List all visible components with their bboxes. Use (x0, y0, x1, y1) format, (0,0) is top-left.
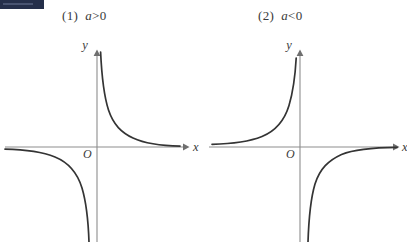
y-axis-label-1: y (80, 38, 88, 52)
panel-1-caption-index: (1) (62, 8, 78, 23)
panel-2-caption-variable: a (281, 8, 288, 23)
y-axis-arrowhead-2 (297, 50, 304, 57)
curve-branch-q2-2 (212, 58, 296, 144)
hyperbola-plot-negative-a: y x O (204, 30, 407, 242)
panel-1-caption-relation: > (92, 8, 100, 23)
hyperbola-plot-positive-a: y x O (0, 30, 203, 242)
x-axis-arrowhead-1 (183, 144, 190, 151)
y-axis-arrowhead-1 (94, 50, 101, 57)
panel-2-caption: (2) a<0 (258, 8, 302, 24)
panel-2-caption-index: (2) (258, 8, 274, 23)
origin-label-1: O (83, 147, 92, 161)
curve-branch-q3-1 (5, 149, 89, 242)
cropped-toolbar-strip (0, 0, 44, 9)
curve-branch-q4-2 (308, 147, 397, 242)
x-axis-label-1: x (192, 140, 199, 154)
panel-2-caption-relation: < (288, 8, 296, 23)
panel-1-caption: (1) a>0 (62, 8, 106, 24)
y-axis-label-2: y (284, 38, 292, 52)
panel-1-caption-value: 0 (100, 8, 107, 23)
x-axis-label-2: x (401, 140, 407, 154)
figure-root: (1) a>0 (2) a<0 y x O (0, 0, 407, 242)
panel-1-caption-variable: a (85, 8, 92, 23)
curve-branch-q1-1 (101, 52, 180, 146)
panel-2-caption-value: 0 (296, 8, 303, 23)
origin-label-2: O (286, 147, 295, 161)
